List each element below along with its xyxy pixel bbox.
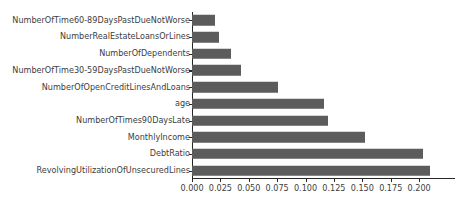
x-axis-tick-mark [277,179,278,182]
y-axis-tick-label: RevolvingUtilizationOfUnsecuredLines [0,166,190,174]
x-axis-tick-label: 0.200 [408,184,431,192]
x-axis-tick-mark [334,179,335,182]
y-axis-tick-label: NumberOfTimes90DaysLate [0,116,190,124]
x-axis-tick-label: 0.175 [379,184,402,192]
bar-row [192,162,455,179]
y-axis-tick-mark [189,154,192,155]
bar [192,99,324,110]
y-axis-tick-mark [189,104,192,105]
y-axis-tick-mark [189,171,192,172]
feature-importance-bar-chart: NumberOfTime60-89DaysPastDueNotWorseNumb… [0,0,462,205]
x-axis-tick-label: 0.000 [180,184,203,192]
bar-row [192,12,455,29]
y-axis-tick-mark [189,137,192,138]
x-axis-tick-label: 0.100 [294,184,317,192]
bar [192,65,241,76]
bar [192,132,365,143]
x-axis-tick-mark [419,179,420,182]
bar [192,15,215,26]
y-axis-tick-mark [189,70,192,71]
bar-row [192,79,455,96]
bar [192,32,219,43]
y-axis-tick-mark [189,121,192,122]
bar-row [192,62,455,79]
bar [192,48,231,59]
bar [192,115,328,126]
x-axis-tick-label: 0.150 [351,184,374,192]
x-axis-tick-mark [362,179,363,182]
x-axis-tick-mark [249,179,250,182]
bar-row [192,45,455,62]
x-axis-tick-mark [192,179,193,182]
x-axis-tick-mark [220,179,221,182]
bar-row [192,29,455,46]
y-axis-tick-label: DebtRatio [0,149,190,157]
bar [192,149,423,160]
y-axis-tick-label: NumberOfOpenCreditLinesAndLoans [0,83,190,91]
y-axis-tick-label: NumberOfTime30-59DaysPastDueNotWorse [0,66,190,74]
x-axis-tick-label: 0.050 [237,184,260,192]
bar-row [192,146,455,163]
y-axis-tick-mark [189,54,192,55]
y-axis-tick-mark [189,87,192,88]
y-axis-tick-label: NumberRealEstateLoansOrLines [0,32,190,40]
x-axis-tick-label: 0.025 [209,184,232,192]
x-axis-tick-label: 0.125 [322,184,345,192]
y-axis-tick-label: MonthlyIncome [0,133,190,141]
y-axis-tick-mark [189,37,192,38]
x-axis-tick-label: 0.075 [266,184,289,192]
y-axis-tick-mark [189,20,192,21]
y-axis-tick-label: NumberOfTime60-89DaysPastDueNotWorse [0,16,190,24]
bar-row [192,129,455,146]
y-axis-tick-label: NumberOfDependents [0,49,190,57]
x-axis-tick-mark [391,179,392,182]
bar-row [192,96,455,113]
bar [192,165,430,176]
bar-row [192,112,455,129]
y-axis-tick-label: age [0,99,190,107]
bar [192,82,278,93]
x-axis-tick-mark [306,179,307,182]
